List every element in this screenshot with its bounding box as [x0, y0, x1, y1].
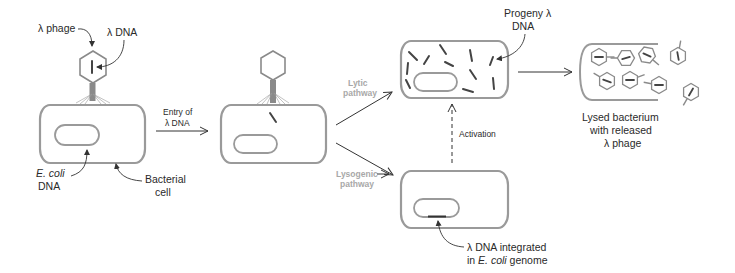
label-lytic-2: pathway [343, 88, 377, 98]
stage-dna-entered [221, 51, 326, 163]
phage-tail [270, 80, 276, 103]
entry-step: Entry of λ DNA [156, 107, 208, 131]
released-phage-icon [637, 44, 659, 70]
released-phage-icon [683, 84, 698, 106]
label-lysogenic-1: Lysogenic [336, 169, 378, 179]
infected-cell [221, 105, 326, 163]
stage-lytic-replication: Progeny λ DNA [401, 7, 552, 98]
injected-lambda-dna [270, 113, 276, 122]
released-phages [592, 41, 699, 106]
released-phage-icon [592, 49, 615, 66]
leader-bacterial-cell [116, 164, 142, 181]
released-phage-icon [594, 73, 615, 90]
released-phage-icon [644, 77, 667, 94]
label-lysed-2: with released [589, 124, 652, 136]
label-bacterial-cell-1: Bacterial [145, 173, 186, 185]
label-integrated-1: λ DNA integrated [467, 241, 547, 253]
stage-lysogeny: λ DNA integrated in E. coli genome [401, 171, 548, 266]
phage-tail [90, 83, 96, 101]
lambda-phage-diagram: λ phage λ DNA E. coli DNA Bacterial cell… [0, 0, 735, 273]
empty-phage-head-icon [261, 51, 285, 80]
label-lysogenic-2: pathway [340, 179, 374, 189]
label-bacterial-cell-2: cell [155, 186, 171, 198]
ecoli-dna-nucleoid [414, 199, 459, 217]
lambda-phage-icon [76, 51, 110, 104]
label-ecoli-dna-1: E. coli [36, 167, 65, 179]
leader-progeny [497, 34, 525, 59]
ecoli-dna-nucleoid [414, 73, 457, 91]
label-activation: Activation [459, 129, 496, 139]
label-integrated-2: in E. coli genome [467, 254, 548, 266]
released-phage-icon [623, 72, 645, 89]
label-progeny-2: DNA [512, 20, 534, 32]
ecoli-dna-nucleoid [234, 135, 277, 153]
label-ecoli-dna-2: DNA [38, 180, 60, 192]
label-progeny-1: Progeny λ [504, 7, 552, 19]
label-lambda-dna: λ DNA [107, 26, 137, 38]
released-phage-icon [671, 41, 686, 65]
label-entry-1: Entry of [163, 107, 193, 117]
pathway-branch: Lytic pathway Lysogenic pathway [336, 78, 393, 189]
ecoli-dna-nucleoid [55, 125, 99, 145]
stage-lysed-bacterium: Lysed bacterium with released λ phage [580, 41, 698, 149]
progeny-dna-fragments [406, 45, 494, 92]
label-lambda-phage: λ phage [38, 22, 76, 34]
label-lytic-1: Lytic [348, 78, 368, 88]
label-lysed-3: λ phage [604, 137, 642, 149]
label-entry-2: λ DNA [165, 118, 190, 128]
leader-integrated [438, 221, 464, 247]
label-lysed-1: Lysed bacterium [582, 111, 659, 123]
leader-lambda-phage [78, 29, 92, 46]
activation-step: Activation [452, 104, 496, 163]
